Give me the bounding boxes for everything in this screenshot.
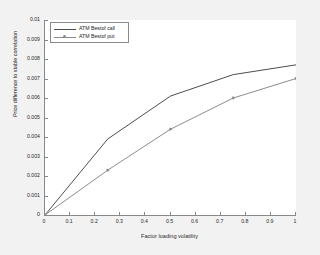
legend-line-sample-put bbox=[53, 33, 77, 41]
y-tick-label: 0 bbox=[3, 212, 40, 217]
plot-area bbox=[44, 20, 296, 216]
series-marker-1 bbox=[169, 128, 172, 131]
x-tick-label: 0 bbox=[43, 219, 46, 224]
x-tick-mark bbox=[245, 212, 246, 215]
x-tick-label: 0.7 bbox=[216, 219, 223, 224]
series-marker-1 bbox=[295, 77, 296, 80]
legend-label-put: ATM Bestof put bbox=[77, 34, 114, 39]
x-tick-label: 0.2 bbox=[91, 219, 98, 224]
x-tick-label: 0.8 bbox=[241, 219, 248, 224]
y-tick-label: 0.004 bbox=[3, 134, 40, 139]
y-tick-mark bbox=[45, 40, 48, 41]
y-tick-label: 0.001 bbox=[3, 193, 40, 198]
y-tick-mark bbox=[45, 137, 48, 138]
x-axis-label: Factor loading volatility bbox=[44, 234, 295, 240]
y-tick-label: 0.007 bbox=[3, 76, 40, 81]
x-tick-label: 1 bbox=[294, 219, 297, 224]
series-line-1 bbox=[45, 79, 296, 216]
legend-item-put: ATM Bestof put bbox=[53, 33, 126, 41]
y-tick-mark bbox=[45, 196, 48, 197]
y-tick-mark bbox=[45, 157, 48, 158]
x-tick-mark bbox=[170, 212, 171, 215]
x-tick-label: 0.6 bbox=[191, 219, 198, 224]
series-marker-1 bbox=[106, 169, 109, 172]
series-line-0 bbox=[45, 65, 296, 215]
y-tick-label: 0.01 bbox=[3, 17, 40, 22]
x-tick-mark bbox=[94, 212, 95, 215]
x-tick-label: 0.3 bbox=[116, 219, 123, 224]
y-tick-label: 0.002 bbox=[3, 173, 40, 178]
legend: ATM Bestof call ATM Bestof put bbox=[50, 22, 129, 43]
y-tick-mark bbox=[45, 20, 48, 21]
x-tick-label: 0.9 bbox=[266, 219, 273, 224]
y-tick-label: 0.008 bbox=[3, 56, 40, 61]
y-axis-label: Price difference to stable correlation bbox=[13, 31, 18, 117]
legend-item-call: ATM Bestof call bbox=[53, 25, 126, 33]
y-tick-mark bbox=[45, 98, 48, 99]
series-marker-1 bbox=[232, 97, 235, 100]
x-tick-label: 0.5 bbox=[166, 219, 173, 224]
x-tick-mark bbox=[270, 212, 271, 215]
y-tick-label: 0.005 bbox=[3, 115, 40, 120]
legend-label-call: ATM Bestof call bbox=[77, 26, 115, 31]
y-tick-label: 0.009 bbox=[3, 37, 40, 42]
x-tick-mark bbox=[295, 212, 296, 215]
y-tick-label: 0.006 bbox=[3, 95, 40, 100]
plot-svg bbox=[45, 20, 296, 215]
figure-canvas: 00.0010.0020.0030.0040.0050.0060.0070.00… bbox=[0, 0, 320, 255]
x-tick-mark bbox=[44, 212, 45, 215]
y-tick-mark bbox=[45, 59, 48, 60]
y-tick-mark bbox=[45, 118, 48, 119]
y-tick-mark bbox=[45, 215, 48, 216]
x-tick-label: 0.4 bbox=[141, 219, 148, 224]
y-tick-mark bbox=[45, 79, 48, 80]
y-tick-mark bbox=[45, 176, 48, 177]
y-tick-label: 0.003 bbox=[3, 154, 40, 159]
x-tick-mark bbox=[69, 212, 70, 215]
legend-line-sample-call bbox=[53, 25, 77, 33]
x-tick-label: 0.1 bbox=[65, 219, 72, 224]
series-layer bbox=[45, 65, 296, 215]
x-tick-mark bbox=[220, 212, 221, 215]
x-tick-mark bbox=[144, 212, 145, 215]
x-tick-mark bbox=[195, 212, 196, 215]
x-tick-mark bbox=[119, 212, 120, 215]
